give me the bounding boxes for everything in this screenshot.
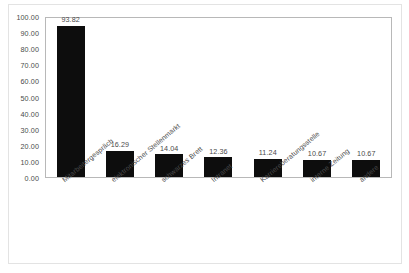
bar-slot: 10.67 [292, 18, 341, 177]
bar-slot: 14.04 [145, 18, 194, 177]
y-axis-tick-label: 60.00 [21, 77, 40, 86]
bar-slot: 93.82 [46, 18, 95, 177]
y-axis-tick-label: 90.00 [21, 29, 40, 38]
bar-slot: 12.36 [194, 18, 243, 177]
y-axis-tick-label: 40.00 [21, 109, 40, 118]
y-axis-tick-label: 100.00 [16, 13, 39, 22]
y-axis: 100.0090.0080.0070.0060.0050.0040.0030.0… [0, 17, 42, 178]
x-axis: Mitarbeitergesprächelektronischer Stelle… [45, 178, 392, 268]
bar-chart-figure: 100.0090.0080.0070.0060.0050.0040.0030.0… [0, 0, 409, 273]
y-axis-tick-label: 10.00 [21, 157, 40, 166]
y-axis-tick-label: 0.00 [25, 174, 39, 183]
bar-slot: 16.29 [95, 18, 144, 177]
y-axis-tick-label: 20.00 [21, 141, 40, 150]
bar[interactable] [57, 26, 85, 177]
y-axis-tick-label: 70.00 [21, 61, 40, 70]
y-axis-tick-label: 30.00 [21, 125, 40, 134]
bar-slot: 11.24 [243, 18, 292, 177]
y-axis-tick-label: 50.00 [21, 93, 40, 102]
bar-value-label: 93.82 [41, 15, 101, 24]
y-axis-tick-label: 80.00 [21, 45, 40, 54]
